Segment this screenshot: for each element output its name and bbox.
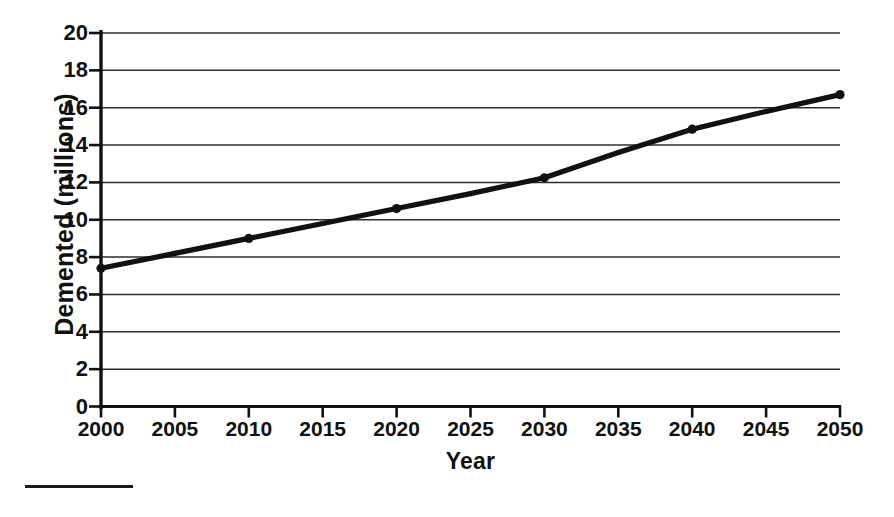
x-axis-tick-label: 2005 [135, 418, 215, 440]
x-axis-tick-label: 2025 [431, 418, 511, 440]
data-point-marker [540, 173, 549, 182]
data-point-marker [688, 125, 697, 134]
data-point-marker [96, 264, 105, 273]
x-axis-tick-label: 2030 [504, 418, 584, 440]
x-axis-tick-label: 2015 [283, 418, 363, 440]
chart-figure: Demented (millions) 02468101214161820 20… [0, 0, 894, 517]
gridlines [101, 33, 840, 369]
x-axis-tick-label: 2035 [578, 418, 658, 440]
data-point-marker [320, 221, 325, 226]
data-series-line [101, 95, 840, 269]
footer-rule [25, 485, 133, 488]
data-point-marker [764, 109, 769, 114]
x-axis-tick-labels: 2000200520102015202020252030203520402045… [0, 418, 894, 452]
x-axis-tick-label: 2010 [209, 418, 289, 440]
data-point-marker [172, 251, 177, 256]
x-axis-tick-label: 2000 [61, 418, 141, 440]
data-point-marker [392, 204, 401, 213]
x-axis-tick-label: 2020 [357, 418, 437, 440]
data-point-marker [244, 234, 253, 243]
x-axis-tick-label: 2045 [726, 418, 806, 440]
x-axis-tick-label: 2040 [652, 418, 732, 440]
x-axis-tick-label: 2050 [800, 418, 880, 440]
data-point-marker [468, 191, 473, 196]
data-point-marker [835, 90, 844, 99]
data-point-marker [616, 150, 621, 155]
x-axis-title: Year [101, 448, 840, 475]
